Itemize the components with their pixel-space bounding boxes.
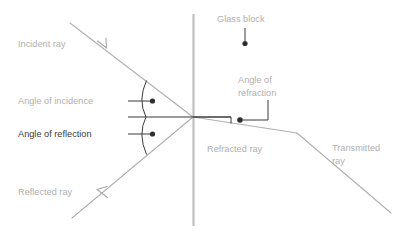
angle-of-refraction-label-line1: Angle of xyxy=(238,75,272,85)
transmitted-ray-label-line1: Transmitted xyxy=(332,143,380,153)
incident-ray-label: Incident ray xyxy=(18,39,66,49)
angle-of-refraction-marker-dot xyxy=(237,117,243,123)
incident-ray-arrowhead xyxy=(98,38,107,48)
refracted-ray-line xyxy=(193,117,297,133)
angle-of-reflection-marker-dot xyxy=(150,131,155,136)
glass-block-marker-dot xyxy=(242,41,247,46)
angle-of-refraction-leader-line xyxy=(243,100,268,120)
angle-of-incidence-label: Angle of incidence xyxy=(18,96,93,106)
angle-of-reflection-arc xyxy=(142,117,147,155)
refracted-ray-label: Refracted ray xyxy=(207,144,263,154)
angle-of-incidence-marker-dot xyxy=(150,98,155,103)
reflected-ray-label: Reflected ray xyxy=(18,187,73,197)
angle-of-reflection-label: Angle of reflection xyxy=(18,129,92,139)
glass-block-label: Glass block xyxy=(217,14,265,24)
angle-of-incidence-arc xyxy=(142,81,147,118)
transmitted-ray-label-line2: ray xyxy=(332,156,345,166)
optics-refraction-diagram: Angle of incidence Angle of reflection I… xyxy=(0,0,407,233)
angle-of-refraction-label-line2: refraction xyxy=(238,88,276,98)
